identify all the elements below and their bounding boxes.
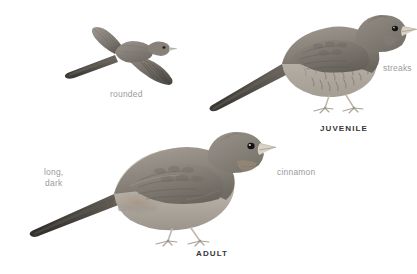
callout-cinnamon-flank: cinnamon (118, 203, 156, 214)
callout-long-dark-line1: long, (44, 167, 63, 178)
figure-bird-in-flight (60, 24, 192, 90)
callout-streaks: streaks (383, 63, 412, 74)
bird-illustration-plate: rounded streaks long, dark cinnamon cinn… (0, 0, 417, 274)
callout-long-dark-line2: dark (44, 178, 63, 189)
callout-rounded: rounded (110, 89, 143, 100)
caption-adult: ADULT (196, 249, 228, 258)
caption-juvenile: JUVENILE (320, 124, 368, 133)
callout-cinnamon-throat: cinnamon (277, 167, 315, 178)
callout-long-dark: long, dark (44, 167, 63, 189)
